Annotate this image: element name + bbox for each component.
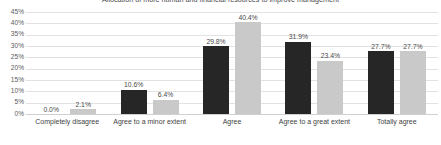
bar-groups: 0.0%2.1%10.6%6.4%29.8%40.4%31.9%23.4%27.… xyxy=(26,12,438,114)
bar-value-label: 0.0% xyxy=(43,106,59,113)
chart-title: Allocation of more human and financial r… xyxy=(0,0,441,4)
bar-value-label: 27.7% xyxy=(371,43,390,50)
x-axis-category-label: Agree xyxy=(191,117,273,143)
bar-chart: Allocation of more human and financial r… xyxy=(0,0,441,145)
y-axis-tick-label: 35% xyxy=(0,31,24,38)
bar-group: 27.7%27.7% xyxy=(356,12,438,114)
x-axis-labels: Completely disagreeAgree to a minor exte… xyxy=(26,117,438,143)
y-axis-tick-label: 0% xyxy=(0,111,24,118)
bar-slot: 10.6% xyxy=(121,12,147,114)
bar-group: 0.0%2.1% xyxy=(26,12,108,114)
x-axis-category-label: Agree to a great extent xyxy=(273,117,355,143)
bar[interactable] xyxy=(70,109,96,114)
bar[interactable] xyxy=(235,22,261,114)
bar-value-label: 29.8% xyxy=(206,38,225,45)
bar-slot: 6.4% xyxy=(153,12,179,114)
y-axis-tick-label: 40% xyxy=(0,20,24,27)
bar-slot: 23.4% xyxy=(317,12,343,114)
x-axis-category-label: Totally agree xyxy=(356,117,438,143)
y-axis-tick-label: 5% xyxy=(0,99,24,106)
bar[interactable] xyxy=(285,42,311,114)
bar[interactable] xyxy=(317,61,343,114)
bar-value-label: 2.1% xyxy=(75,101,91,108)
y-axis-tick-label: 30% xyxy=(0,43,24,50)
x-axis-category-label: Agree to a minor extent xyxy=(108,117,190,143)
bar-slot: 27.7% xyxy=(368,12,394,114)
y-axis-tick-label: 15% xyxy=(0,77,24,84)
bar-value-label: 10.6% xyxy=(124,81,143,88)
bar-value-label: 40.4% xyxy=(238,14,257,21)
bar-value-label: 23.4% xyxy=(321,52,340,59)
y-axis-tick-label: 20% xyxy=(0,65,24,72)
bar-group: 10.6%6.4% xyxy=(108,12,190,114)
bar-value-label: 31.9% xyxy=(289,33,308,40)
bar-slot: 27.7% xyxy=(400,12,426,114)
bar[interactable] xyxy=(121,90,147,114)
bar-value-label: 6.4% xyxy=(158,91,174,98)
bar-slot: 2.1% xyxy=(70,12,96,114)
bar[interactable] xyxy=(400,51,426,114)
gridline xyxy=(26,114,438,115)
bar-slot: 31.9% xyxy=(285,12,311,114)
bar[interactable] xyxy=(203,46,229,114)
y-axis-tick-label: 45% xyxy=(0,9,24,16)
bar[interactable] xyxy=(153,100,179,115)
bar-slot: 29.8% xyxy=(203,12,229,114)
bar-group: 29.8%40.4% xyxy=(191,12,273,114)
bar-group: 31.9%23.4% xyxy=(273,12,355,114)
bar-value-label: 27.7% xyxy=(403,43,422,50)
y-axis-tick-label: 10% xyxy=(0,88,24,95)
bar-slot: 0.0% xyxy=(38,12,64,114)
bar-slot: 40.4% xyxy=(235,12,261,114)
x-axis-category-label: Completely disagree xyxy=(26,117,108,143)
y-axis: 45%40%35%30%25%20%15%10%5%0% xyxy=(0,12,24,114)
y-axis-tick-label: 25% xyxy=(0,54,24,61)
bar[interactable] xyxy=(368,51,394,114)
